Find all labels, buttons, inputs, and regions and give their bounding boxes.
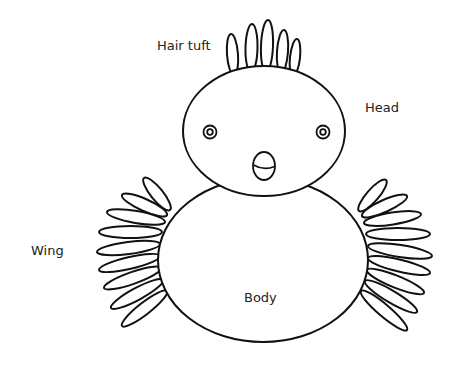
- hair-strand-3: [260, 20, 274, 72]
- label-hair-tuft: Hair tuft: [157, 38, 211, 53]
- right-wing-feather-4: [366, 228, 430, 240]
- bird-diagram: Hair tuft Head Wing Body: [0, 0, 457, 365]
- left-wing-feather-4: [99, 226, 162, 238]
- label-wing: Wing: [31, 243, 64, 258]
- label-body: Body: [244, 290, 277, 305]
- label-head: Head: [365, 100, 399, 115]
- hair-strand-2: [245, 24, 258, 72]
- body-shape: [158, 178, 368, 342]
